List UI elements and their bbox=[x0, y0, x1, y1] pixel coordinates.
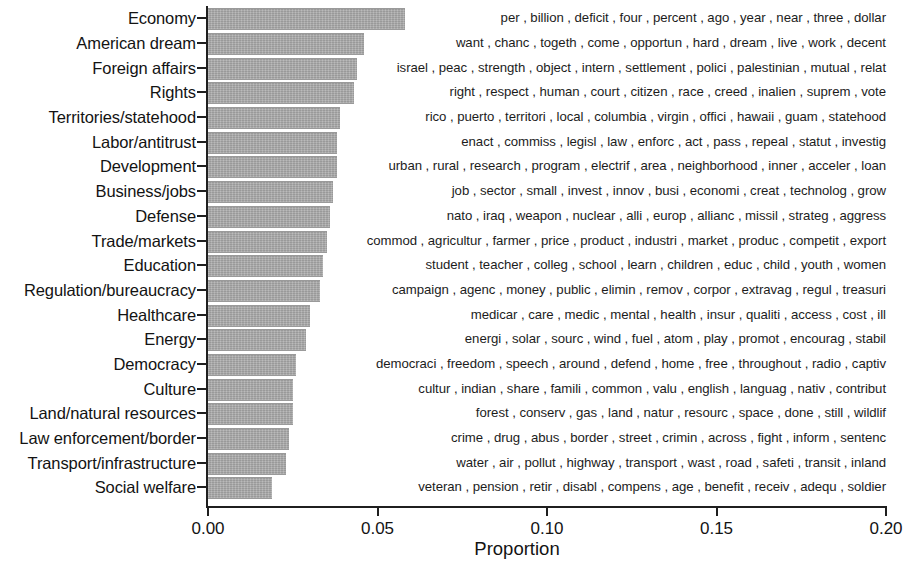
bar-track bbox=[208, 329, 306, 349]
x-axis-title-label: Proportion bbox=[474, 540, 559, 559]
category-label: Territories/statehood bbox=[49, 109, 196, 126]
category-label: Education bbox=[124, 257, 197, 274]
topic-terms-label: energi , solar , sourc , wind , fuel , a… bbox=[465, 333, 886, 346]
category-label: Rights bbox=[150, 84, 196, 101]
bar bbox=[208, 453, 286, 475]
bar-track bbox=[208, 477, 272, 497]
bar-track bbox=[208, 8, 405, 28]
bar-row: Healthcaremedicar , care , medic , menta… bbox=[0, 302, 904, 327]
y-axis-tick bbox=[197, 165, 207, 167]
category-label: Economy bbox=[128, 10, 196, 27]
bar-row: Defensenato , iraq , weapon , nuclear , … bbox=[0, 204, 904, 229]
y-axis-tick bbox=[197, 240, 207, 242]
topic-terms-label: campaign , agenc , money , public , elim… bbox=[392, 283, 886, 296]
x-axis-tick-label: 0.00 bbox=[191, 520, 224, 537]
y-axis-tick bbox=[197, 67, 207, 69]
x-axis-tick bbox=[377, 506, 379, 516]
bar bbox=[208, 132, 337, 154]
category-label: Healthcare bbox=[117, 306, 196, 323]
category-label: Business/jobs bbox=[95, 183, 196, 200]
x-axis-tick-label: 0.05 bbox=[361, 520, 394, 537]
y-axis-tick bbox=[197, 462, 207, 464]
topic-terms-label: israel , peac , strength , object , inte… bbox=[397, 61, 886, 74]
bar bbox=[208, 354, 296, 376]
category-label: Transport/infrastructure bbox=[28, 454, 196, 471]
topic-terms-label: want , chanc , togeth , come , opportun … bbox=[456, 36, 886, 49]
topic-terms-label: commod , agricultur , farmer , price , p… bbox=[367, 234, 886, 247]
topic-terms-label: water , air , pollut , highway , transpo… bbox=[456, 456, 886, 469]
topic-terms-label: per , billion , deficit , four , percent… bbox=[501, 12, 886, 25]
bar bbox=[208, 403, 293, 425]
category-label: Regulation/bureaucracy bbox=[24, 282, 196, 299]
bar-track bbox=[208, 107, 340, 127]
bar bbox=[208, 33, 364, 55]
bar-track bbox=[208, 305, 310, 325]
topic-terms-label: student , teacher , colleg , school , le… bbox=[426, 259, 887, 272]
x-axis-tick bbox=[207, 506, 209, 516]
bar-row: Regulation/bureaucracycampaign , agenc ,… bbox=[0, 278, 904, 303]
y-axis-tick bbox=[197, 486, 207, 488]
bar-track bbox=[208, 231, 327, 251]
bar-track bbox=[208, 403, 293, 423]
topic-terms-label: cultur , indian , share , famili , commo… bbox=[418, 382, 886, 395]
category-label: Democracy bbox=[113, 356, 196, 373]
bar-rows: Economyper , billion , deficit , four , … bbox=[0, 6, 904, 500]
bar-track bbox=[208, 206, 330, 226]
bar-track bbox=[208, 132, 337, 152]
bar-track bbox=[208, 255, 323, 275]
topic-proportion-bar-chart: Economyper , billion , deficit , four , … bbox=[0, 0, 904, 569]
y-axis-tick bbox=[197, 363, 207, 365]
bar-track bbox=[208, 156, 337, 176]
topic-terms-label: rico , puerto , territori , local , colu… bbox=[425, 110, 886, 123]
bar bbox=[208, 107, 340, 129]
x-axis-tick bbox=[885, 506, 887, 516]
bar-row: Energyenergi , solar , sourc , wind , fu… bbox=[0, 327, 904, 352]
bar bbox=[208, 181, 333, 203]
bar-row: Trade/marketscommod , agricultur , farme… bbox=[0, 228, 904, 253]
y-axis-tick bbox=[197, 264, 207, 266]
bar-row: Law enforcement/bordercrime , drug , abu… bbox=[0, 426, 904, 451]
y-axis-tick bbox=[197, 42, 207, 44]
category-label: Law enforcement/border bbox=[19, 430, 196, 447]
y-axis-tick bbox=[197, 190, 207, 192]
x-axis-tick-label: 0.20 bbox=[869, 520, 902, 537]
bar-track bbox=[208, 453, 286, 473]
bar-track bbox=[208, 428, 289, 448]
x-axis-tick-label: 0.15 bbox=[700, 520, 733, 537]
bar bbox=[208, 477, 272, 499]
category-label: Foreign affairs bbox=[92, 59, 196, 76]
bar bbox=[208, 280, 320, 302]
topic-terms-label: right , respect , human , court , citize… bbox=[450, 86, 886, 99]
y-axis-tick bbox=[197, 116, 207, 118]
y-axis-tick bbox=[197, 338, 207, 340]
bar-track bbox=[208, 82, 354, 102]
x-axis-tick bbox=[546, 506, 548, 516]
bar-row: Land/natural resourcesforest , conserv ,… bbox=[0, 401, 904, 426]
bar-track bbox=[208, 58, 357, 78]
bar-row: Democracydemocraci , freedom , speech , … bbox=[0, 352, 904, 377]
bar-row: Territories/statehoodrico , puerto , ter… bbox=[0, 105, 904, 130]
bar-track bbox=[208, 181, 333, 201]
topic-terms-label: enact , commiss , legisl , law , enforc … bbox=[461, 135, 886, 148]
bar bbox=[208, 206, 330, 228]
category-label: Labor/antitrust bbox=[92, 134, 196, 151]
bar bbox=[208, 8, 405, 30]
bar-track bbox=[208, 280, 320, 300]
bar bbox=[208, 231, 327, 253]
category-label: Defense bbox=[135, 208, 196, 225]
y-axis-tick bbox=[197, 17, 207, 19]
y-axis-tick bbox=[197, 91, 207, 93]
bar bbox=[208, 255, 323, 277]
x-axis-tick-label: 0.10 bbox=[530, 520, 563, 537]
category-label: American dream bbox=[76, 35, 196, 52]
bar-row: Developmenturban , rural , research , pr… bbox=[0, 154, 904, 179]
topic-terms-label: medicar , care , medic , mental , health… bbox=[471, 308, 886, 321]
bar bbox=[208, 305, 310, 327]
bar bbox=[208, 329, 306, 351]
y-axis-tick bbox=[197, 289, 207, 291]
bar-row: Educationstudent , teacher , colleg , sc… bbox=[0, 253, 904, 278]
category-label: Culture bbox=[144, 380, 197, 397]
x-axis-title: Proportion bbox=[0, 540, 904, 559]
bar-row: Labor/antitrustenact , commiss , legisl … bbox=[0, 129, 904, 154]
category-label: Trade/markets bbox=[92, 232, 196, 249]
